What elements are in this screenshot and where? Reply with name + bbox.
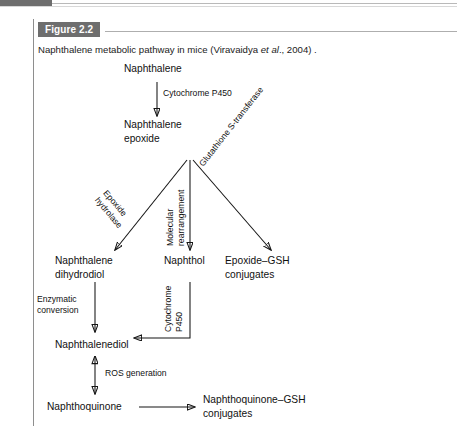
node-epoxide-gsh-conjugates: Epoxide–GSH conjugates [225,254,290,281]
node-epoxide-gsh-conjugates-line1: Epoxide–GSH [225,254,290,268]
node-naphthalene-dihydrodiol-line2: dihydrodiol [55,268,113,282]
edge-label-molecular-rearrangement-line2: rearrangement [176,190,187,246]
node-naphthalene-dihydrodiol: Naphthalene dihydrodiol [55,254,113,281]
figure-caption-prefix: Naphthalene metabolic pathway in mice (V… [38,44,261,55]
edge-label-enzymatic-conversion-line2: conversion [37,305,79,316]
arrow-epoxide-to-gsh-conjugates [193,160,271,250]
figure-caption: Naphthalene metabolic pathway in mice (V… [38,43,438,56]
previous-figure-rule [52,3,457,4]
edge-label-cytochrome-p450-lower-line2: P450 [174,286,185,332]
node-naphthol: Naphthol [164,254,205,268]
edge-label-enzymatic-conversion-line1: Enzymatic [37,294,79,305]
node-naphthalene-epoxide-line2: epoxide [124,132,182,146]
edge-label-cytochrome-p450-top: Cytochrome P450 [163,88,232,99]
node-naphthalene-dihydrodiol-line1: Naphthalene [55,254,113,268]
node-naphthalene-epoxide-line1: Naphthalene [124,118,182,132]
edge-label-cytochrome-p450-lower-line1: Cytochrome [163,286,174,332]
node-naphthalene: Naphthalene [124,62,182,76]
node-naphthoquinone: Naphthoquinone [47,400,122,414]
node-epoxide-gsh-conjugates-line2: conjugates [225,268,290,282]
previous-figure-rule-secondary [0,6,457,7]
node-naphthoquinone-gsh-conjugates-line2: conjugates [203,407,306,421]
node-naphthoquinone-gsh-conjugates: Naphthoquinone–GSH conjugates [203,393,306,420]
node-naphthoquinone-gsh-conjugates-line1: Naphthoquinone–GSH [203,393,306,407]
figure-caption-et-al: et al [261,44,279,55]
figure-number-badge: Figure 2.2 [38,22,100,37]
figure-header-rule [105,31,457,32]
node-naphthalenediol: Naphthalenediol [55,338,129,352]
edge-label-ros-generation: ROS generation [105,368,167,379]
edge-label-molecular-rearrangement: Molecular rearrangement [165,190,186,246]
node-naphthalene-epoxide: Naphthalene epoxide [124,118,182,145]
metabolic-pathway-diagram: Naphthalene Naphthalene epoxide Naphthal… [33,60,457,426]
edge-label-enzymatic-conversion: Enzymatic conversion [37,294,79,316]
edge-label-cytochrome-p450-lower: Cytochrome P450 [163,286,184,332]
figure-page: Figure 2.2 Naphthalene metabolic pathway… [0,0,457,442]
figure-caption-suffix: ., 2004) . [279,44,317,55]
edge-label-molecular-rearrangement-line1: Molecular [165,190,176,246]
